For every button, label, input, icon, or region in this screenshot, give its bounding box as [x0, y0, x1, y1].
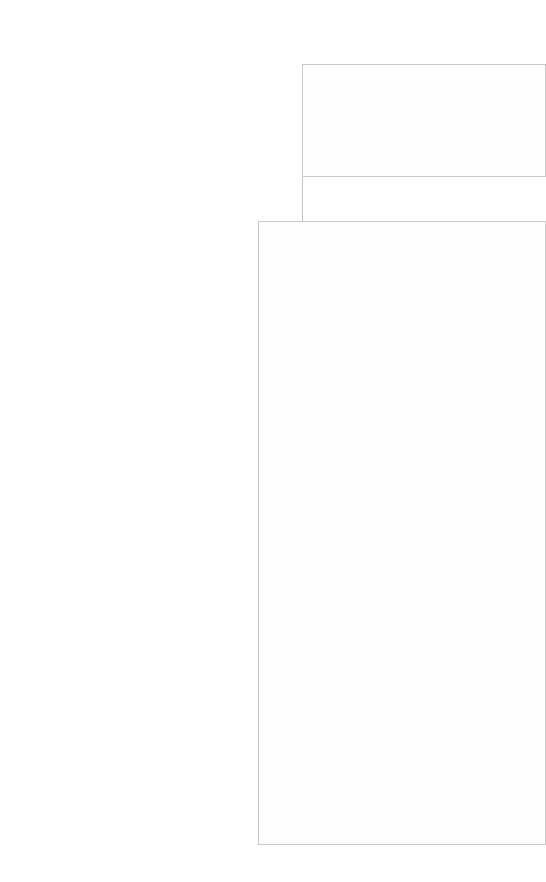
chart-root — [0, 0, 546, 882]
overview-panel — [302, 64, 546, 177]
detail-panel-frame — [258, 221, 546, 845]
zoom-connector-left — [302, 177, 303, 221]
detail-panel — [258, 221, 546, 845]
overview-panel-frame — [302, 64, 546, 177]
chart-legend — [0, 2, 546, 24]
